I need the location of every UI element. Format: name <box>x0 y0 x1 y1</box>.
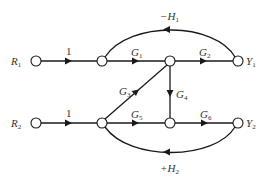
node-a <box>97 56 107 66</box>
arrow-icon <box>65 58 72 65</box>
signal-flow-graph: R1 R2 Y1 Y2 1 1 G1 G2 G3 G4 G5 G6 −H1 +H… <box>0 0 269 182</box>
arrow-icon <box>132 58 139 65</box>
node-b <box>165 56 175 66</box>
edge-h1-feedback <box>105 30 235 57</box>
arrow-icon <box>163 26 170 33</box>
label-gain-r1: 1 <box>66 45 72 57</box>
arrow-icon <box>132 120 139 127</box>
arrow-icon <box>200 58 207 65</box>
label-g4: G4 <box>176 88 188 102</box>
label-h2: +H2 <box>160 162 179 176</box>
label-g5: G5 <box>131 108 143 122</box>
node-y1 <box>233 56 243 66</box>
label-r2: R2 <box>10 117 22 131</box>
label-h1: −H1 <box>160 10 179 24</box>
arrow-icon <box>163 149 170 156</box>
node-r2 <box>31 118 41 128</box>
node-c <box>97 118 107 128</box>
label-g1: G1 <box>131 46 143 60</box>
label-r1: R1 <box>10 55 22 69</box>
arrow-icon <box>65 120 72 127</box>
label-g2: G2 <box>199 46 211 60</box>
label-y1: Y1 <box>246 55 256 69</box>
node-y2 <box>233 118 243 128</box>
label-g3: G3 <box>119 85 131 99</box>
node-r1 <box>31 56 41 66</box>
arrow-icon <box>167 90 174 97</box>
label-g6: G6 <box>200 108 212 122</box>
label-gain-r2: 1 <box>66 107 72 119</box>
arrow-icon <box>201 120 208 127</box>
node-d <box>165 118 175 128</box>
label-y2: Y2 <box>246 117 256 131</box>
